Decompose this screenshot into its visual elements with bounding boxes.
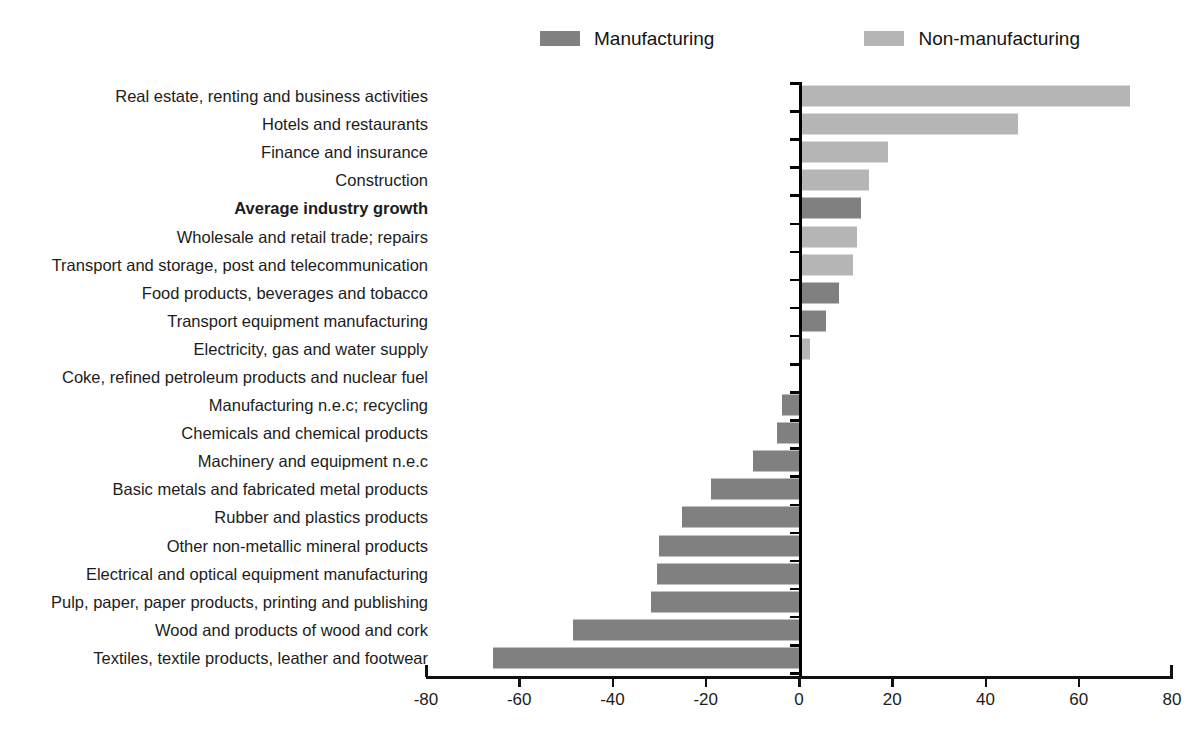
bar-row-label: Food products, beverages and tobacco — [142, 284, 428, 301]
bar — [801, 170, 869, 191]
category-tick — [790, 194, 800, 197]
bar-row-label: Textiles, textile products, leather and … — [93, 649, 428, 666]
x-axis-tick — [612, 676, 615, 687]
bar — [801, 282, 839, 303]
category-tick — [790, 82, 800, 85]
category-tick — [790, 447, 800, 450]
bar-row: Other non-metallic mineral products — [0, 532, 1200, 560]
bar-row: Construction — [0, 166, 1200, 194]
bar-row-label: Electrical and optical equipment manufac… — [86, 565, 428, 582]
bar — [573, 619, 799, 640]
x-axis-tick-label: -60 — [507, 691, 532, 709]
category-tick — [790, 419, 800, 422]
bar-row: Rubber and plastics products — [0, 503, 1200, 531]
legend-swatch-icon — [540, 31, 580, 46]
bar-chart: Manufacturing Non-manufacturing Real est… — [0, 0, 1200, 740]
bar-row: Real estate, renting and business activi… — [0, 82, 1200, 110]
category-tick — [790, 616, 800, 619]
bar-row: Machinery and equipment n.e.c — [0, 447, 1200, 475]
bar-row-label: Electricity, gas and water supply — [194, 340, 428, 357]
x-axis-tick — [705, 676, 708, 687]
bar-row-label: Other non-metallic mineral products — [167, 537, 428, 554]
bar-row: Wholesale and retail trade; repairs — [0, 222, 1200, 250]
category-tick — [790, 251, 800, 254]
bar-row: Pulp, paper, paper products, printing an… — [0, 588, 1200, 616]
x-axis-tick-label: 60 — [1069, 691, 1088, 709]
bar-row: Electrical and optical equipment manufac… — [0, 560, 1200, 588]
bar-row-label: Average industry growth — [234, 200, 428, 217]
bar-row-label: Wholesale and retail trade; repairs — [177, 228, 428, 245]
bar-row: Average industry growth — [0, 194, 1200, 222]
x-axis-tick — [985, 676, 988, 687]
bar — [801, 310, 826, 331]
category-tick — [790, 223, 800, 226]
bar-row-label: Finance and insurance — [261, 144, 428, 161]
x-axis-tick-label: 0 — [794, 691, 803, 709]
bar — [682, 507, 799, 528]
bar-row: Coke, refined petroleum products and nuc… — [0, 363, 1200, 391]
x-axis-tick — [891, 676, 894, 687]
bar-row-label: Hotels and restaurants — [262, 116, 428, 133]
bar — [801, 142, 888, 163]
category-tick — [790, 110, 800, 113]
category-tick — [790, 588, 800, 591]
bar-row: Transport and storage, post and telecomm… — [0, 251, 1200, 279]
category-tick — [790, 672, 800, 675]
legend-label-non-manufacturing: Non-manufacturing — [918, 29, 1080, 48]
bar — [801, 198, 861, 219]
x-axis-tick — [1078, 676, 1081, 687]
legend-entry-non-manufacturing: Non-manufacturing — [864, 29, 1080, 48]
x-axis-tick-label: -40 — [600, 691, 625, 709]
bar — [801, 254, 853, 275]
bar-row-label: Real estate, renting and business activi… — [115, 88, 428, 105]
bar — [801, 226, 857, 247]
bar-row-label: Transport and storage, post and telecomm… — [52, 256, 428, 273]
bar-row-label: Pulp, paper, paper products, printing an… — [51, 593, 428, 610]
bar-row: Food products, beverages and tobacco — [0, 279, 1200, 307]
bar — [657, 563, 799, 584]
bar — [493, 647, 799, 668]
category-tick — [790, 166, 800, 169]
legend-label-manufacturing: Manufacturing — [594, 29, 714, 48]
bar-row: Hotels and restaurants — [0, 110, 1200, 138]
category-tick — [790, 363, 800, 366]
bar — [659, 535, 799, 556]
category-tick — [790, 475, 800, 478]
category-tick — [790, 335, 800, 338]
bar-row-label: Chemicals and chemical products — [181, 425, 428, 442]
bar — [711, 479, 799, 500]
x-axis-tick — [798, 676, 801, 687]
legend-swatch-icon — [864, 31, 904, 46]
category-tick — [790, 644, 800, 647]
bar-row: Transport equipment manufacturing — [0, 307, 1200, 335]
bar-row: Manufacturing n.e.c; recycling — [0, 391, 1200, 419]
category-tick — [790, 279, 800, 282]
bar-rows: Real estate, renting and business activi… — [0, 82, 1200, 672]
bar-row-label: Coke, refined petroleum products and nuc… — [62, 368, 428, 385]
bar-row-label: Manufacturing n.e.c; recycling — [209, 397, 428, 414]
category-tick — [790, 532, 800, 535]
legend-entry-manufacturing: Manufacturing — [540, 29, 714, 48]
bar-row: Textiles, textile products, leather and … — [0, 644, 1200, 672]
bar — [801, 338, 810, 359]
bar-row-label: Basic metals and fabricated metal produc… — [113, 481, 429, 498]
chart-legend: Manufacturing Non-manufacturing — [430, 18, 1190, 58]
bar — [753, 451, 799, 472]
bar — [651, 591, 799, 612]
bar-row: Chemicals and chemical products — [0, 419, 1200, 447]
category-tick — [790, 504, 800, 507]
x-axis-tick-label: -80 — [414, 691, 439, 709]
bar-row-label: Machinery and equipment n.e.c — [198, 453, 428, 470]
bar-row-label: Construction — [335, 172, 428, 189]
category-tick — [790, 560, 800, 563]
bar-row: Finance and insurance — [0, 138, 1200, 166]
bar-row-label: Transport equipment manufacturing — [167, 312, 428, 329]
bar-row-label: Wood and products of wood and cork — [155, 621, 428, 638]
bar-row: Basic metals and fabricated metal produc… — [0, 475, 1200, 503]
category-tick — [790, 391, 800, 394]
bar — [777, 423, 799, 444]
bar-row: Wood and products of wood and cork — [0, 616, 1200, 644]
x-axis-tick-label: 80 — [1163, 691, 1182, 709]
bar — [782, 395, 799, 416]
bar — [801, 86, 1130, 107]
